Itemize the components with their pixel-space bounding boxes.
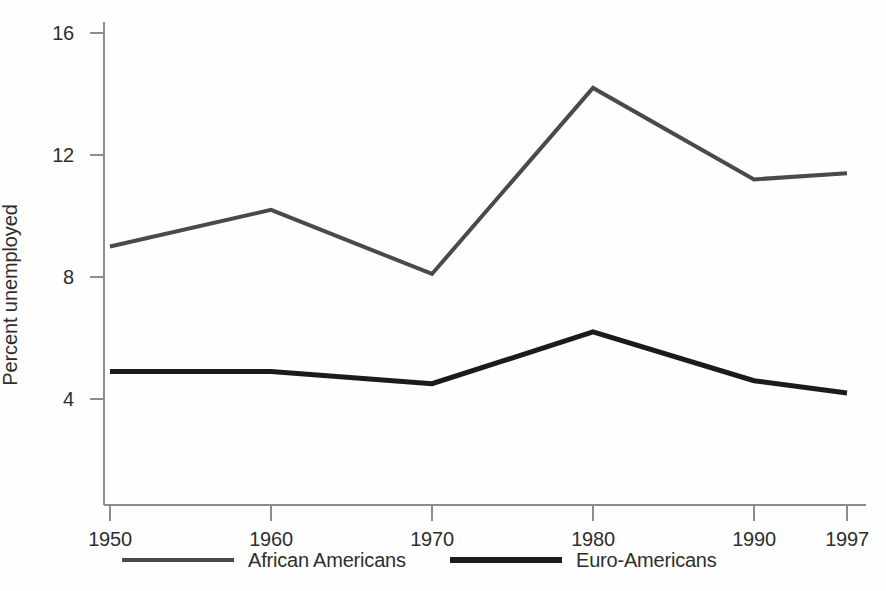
y-tick-label-16: 16	[28, 22, 74, 45]
x-tick-label-1970: 1970	[410, 528, 454, 551]
legend-item-euro-americans: Euro-Americans	[450, 547, 717, 573]
y-tick-label-12: 12	[28, 144, 74, 167]
y-tick-label-8: 8	[28, 266, 74, 289]
y-axis-title: Percent unemployed	[0, 204, 22, 386]
legend-item-african-americans: African Americans	[122, 547, 406, 573]
series-line-euro-americans	[110, 332, 847, 393]
y-tick-label-4: 4	[28, 388, 74, 411]
x-tick-label-1990: 1990	[732, 528, 776, 551]
legend-label-african-americans: African Americans	[248, 549, 406, 572]
chart-canvas	[0, 0, 886, 591]
unemployment-line-chart: Percent unemployed 16 12 8 4 1950 1960 1…	[0, 0, 886, 591]
legend-label-euro-americans: Euro-Americans	[576, 549, 717, 572]
y-axis-ticks	[90, 33, 104, 399]
x-axis-ticks	[110, 505, 847, 521]
legend-swatch-euro-americans	[450, 557, 562, 563]
series-line-african-americans	[110, 88, 847, 274]
legend-swatch-african-americans	[122, 558, 234, 562]
x-tick-label-1997: 1997	[825, 528, 869, 551]
